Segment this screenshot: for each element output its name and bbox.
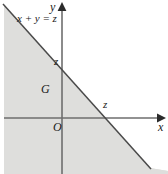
- shaded-region-g-fill-extra: [4, 5, 168, 174]
- x-intercept-label: z: [103, 99, 107, 110]
- line-equation-label: x + y = z: [17, 13, 57, 24]
- x-axis-label: x: [158, 121, 163, 133]
- origin-label: O: [53, 121, 62, 133]
- y-axis-arrowhead-icon: [58, 2, 67, 11]
- figure-canvas: y x x + y = z z z G O: [0, 0, 168, 174]
- y-intercept-label: z: [54, 56, 58, 67]
- coordinate-plot: [0, 0, 168, 174]
- region-label-g: G: [41, 83, 50, 95]
